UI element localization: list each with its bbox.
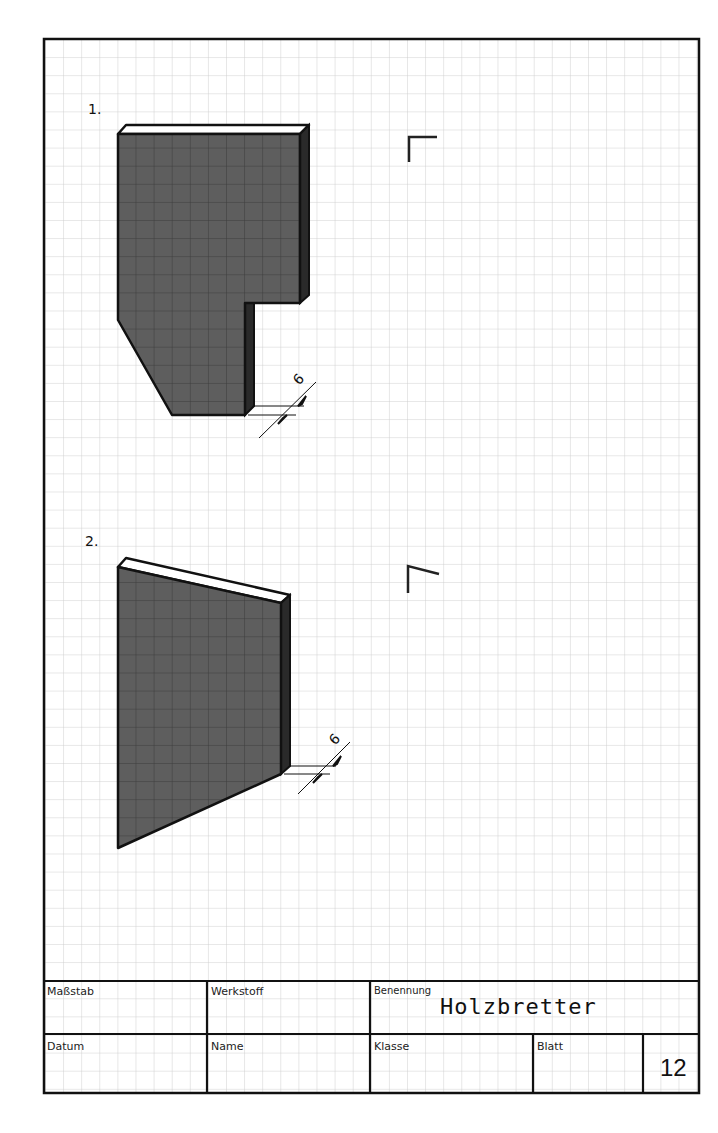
board-1-side-face bbox=[300, 125, 309, 303]
sheet-number: 12 bbox=[660, 1054, 687, 1082]
drawing-sheet bbox=[0, 0, 718, 1133]
material-label: Werkstoff bbox=[211, 985, 263, 998]
scale-label: Maßstab bbox=[47, 985, 94, 998]
board-2-side-face bbox=[281, 595, 290, 774]
board-1-notch-side bbox=[245, 303, 254, 415]
date-label: Datum bbox=[47, 1040, 84, 1053]
exercise-1-number: 1. bbox=[88, 101, 101, 117]
exercise-2-number: 2. bbox=[85, 533, 98, 549]
board-1-top-face bbox=[118, 125, 309, 134]
sheet-label: Blatt bbox=[537, 1040, 563, 1053]
class-label: Klasse bbox=[374, 1040, 409, 1053]
designation-value: Holzbretter bbox=[440, 994, 597, 1019]
name-label: Name bbox=[211, 1040, 243, 1053]
designation-label: Benennung bbox=[374, 985, 431, 996]
